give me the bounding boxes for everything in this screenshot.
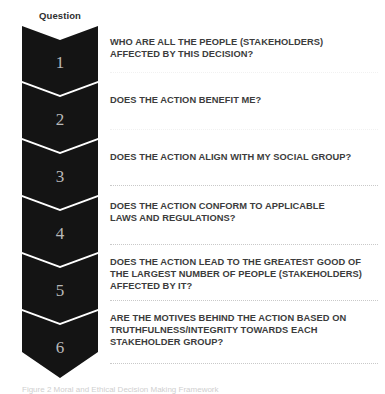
question-separator-5 [110,300,378,302]
question-text-4-line-2: LAWS AND REGULATIONS? [110,212,378,224]
question-row-4: DOES THE ACTION CONFORM TO APPLICABLE LA… [110,200,378,224]
ethical-decision-flow-figure: Question 1 2 3 4 5 6 WHO ARE ALL THE PEO… [0,0,385,394]
question-separator-6 [110,363,378,365]
question-text-6-line-1: ARE THE MOTIVES BEHIND THE ACTION BASED … [110,312,378,324]
question-list: WHO ARE ALL THE PEOPLE (STAKEHOLDERS) AF… [0,0,385,394]
question-row-3: DOES THE ACTION ALIGN WITH MY SOCIAL GRO… [110,151,378,163]
question-row-5: DOES THE ACTION LEAD TO THE GREATEST GOO… [110,256,378,293]
question-separator-3 [110,185,378,187]
question-text-6-line-3: STAKEHOLDER GROUP? [110,336,378,348]
question-text-1-line-1: WHO ARE ALL THE PEOPLE (STAKEHOLDERS) [110,36,378,48]
question-text-5-line-2: THE LARGEST NUMBER OF PEOPLE (STAKEHOLDE… [110,268,378,280]
question-row-6: ARE THE MOTIVES BEHIND THE ACTION BASED … [110,312,378,349]
question-separator-2 [110,129,378,131]
question-separator-1 [110,72,378,74]
figure-caption: Figure 2 Moral and Ethical Decision Maki… [22,385,362,394]
question-row-1: WHO ARE ALL THE PEOPLE (STAKEHOLDERS) AF… [110,36,378,60]
question-text-5-line-3: AFFECTED BY IT? [110,280,378,292]
question-text-6-line-2: TRUTHFULNESS/INTEGRITY TOWARDS EACH [110,324,378,336]
question-text-5-line-1: DOES THE ACTION LEAD TO THE GREATEST GOO… [110,256,378,268]
question-separator-4 [110,244,378,246]
question-text-1-line-2: AFFECTED BY THIS DECISION? [110,48,378,60]
question-text-2-line-1: DOES THE ACTION BENEFIT ME? [110,94,378,106]
question-text-3-line-1: DOES THE ACTION ALIGN WITH MY SOCIAL GRO… [110,151,378,163]
question-text-4-line-1: DOES THE ACTION CONFORM TO APPLICABLE [110,200,378,212]
question-row-2: DOES THE ACTION BENEFIT ME? [110,94,378,106]
